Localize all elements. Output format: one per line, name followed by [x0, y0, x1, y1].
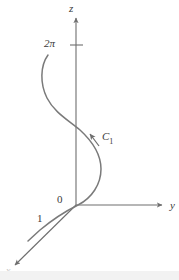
- figure-canvas: [0, 0, 179, 280]
- curve-label: C1: [102, 131, 113, 145]
- x-axis: [15, 205, 76, 265]
- z-tick-label-2pi: 2π: [44, 38, 55, 49]
- origin-label: 0: [57, 194, 63, 205]
- y-axis-label: y: [170, 200, 175, 211]
- z-axis-label: z: [69, 3, 73, 14]
- x-tick-label-1: 1: [37, 213, 43, 224]
- page-bottom-band: [0, 271, 179, 280]
- curve-direction-arrow: [90, 134, 99, 146]
- curve-label-subscript: 1: [109, 137, 113, 146]
